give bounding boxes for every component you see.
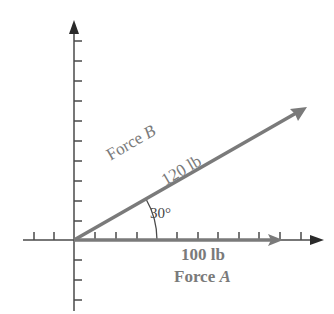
vector-diagram xyxy=(0,0,334,314)
angle-label: 30° xyxy=(150,205,171,222)
force-a-label: Force A xyxy=(174,267,231,287)
force-a-magnitude: 100 lb xyxy=(181,245,225,265)
force-a-name: Force xyxy=(174,267,215,286)
y-axis xyxy=(74,30,82,311)
x-axis-arrowhead-icon xyxy=(310,235,324,245)
force-a-letter: A xyxy=(219,267,230,286)
y-axis-arrowhead-icon xyxy=(69,20,79,34)
